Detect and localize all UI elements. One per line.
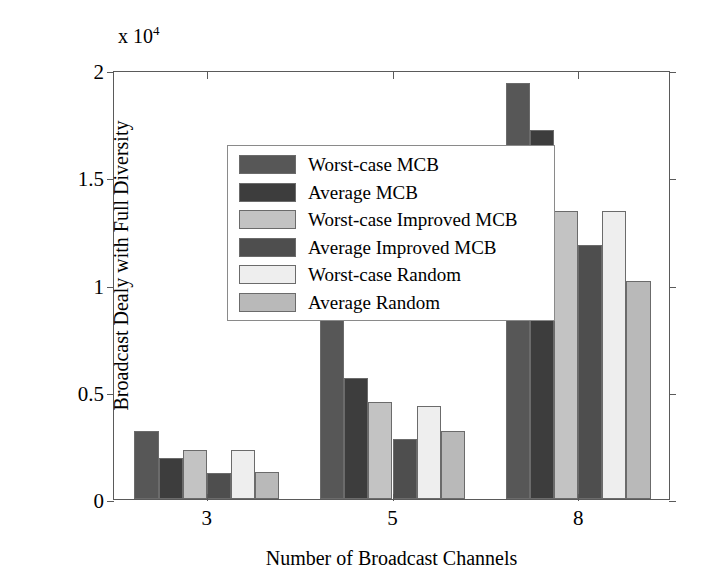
y-axis-title: Broadcast Dealy with Full Diversity [110,31,133,501]
x-axis-tick-top [578,72,579,79]
legend-swatch [239,183,296,202]
legend-swatch [239,293,296,312]
x-axis-tick [393,494,394,501]
bar [417,406,441,499]
bar [368,402,392,499]
x-axis-tick-label: 8 [573,508,584,529]
y-axis-tick-label: 0 [94,491,105,512]
legend-item: Average MCB [228,179,554,207]
y-axis-tick-right [669,287,676,288]
x-axis-tick [207,494,208,501]
y-axis-tick-label: 0.5 [78,383,104,404]
bar [602,211,626,500]
legend-label: Worst-case MCB [308,155,439,174]
bar [255,472,279,499]
bar [134,431,158,499]
x-axis-tick-label: 3 [202,508,213,529]
legend-item: Worst-case Random [228,261,554,289]
x-axis-tick-top [207,72,208,79]
bar [578,245,602,499]
legend-swatch [239,210,296,229]
x-axis-title: Number of Broadcast Channels [113,547,670,570]
legend: Worst-case MCBAverage MCBWorst-case Impr… [227,145,555,321]
y-axis-tick-label: 1 [94,276,105,297]
x-axis-tick-top [393,72,394,79]
y-axis-tick-label: 2 [94,62,105,83]
plot-area: 00.511.52 358 Broadcast Dealy with Full … [113,71,670,500]
y-axis-tick-right [669,179,676,180]
bar [626,281,650,499]
legend-label: Average Random [308,293,440,312]
legend-label: Average Improved MCB [308,238,497,257]
legend-swatch [239,238,296,257]
y-axis-tick-right [669,72,676,73]
bar [441,431,465,499]
legend-item: Average Random [228,289,554,317]
figure-canvas: x 104 00.511.52 358 Broadcast Dealy with… [0,0,705,583]
legend-label: Worst-case Improved MCB [308,210,518,229]
bar [344,378,368,499]
y-axis-tick-right [669,394,676,395]
y-axis-tick-label: 1.5 [78,169,104,190]
legend-item: Worst-case Improved MCB [228,206,554,234]
x-axis-tick [578,494,579,501]
y-axis-tick-right [669,501,676,502]
y-axis-multiplier-exponent: 4 [153,23,160,38]
y-axis-tick [107,501,114,502]
bar [554,211,578,500]
bar [183,450,207,499]
legend-item: Worst-case MCB [228,151,554,179]
x-axis-tick-label: 5 [387,508,398,529]
bar [207,473,231,499]
legend-swatch [239,265,296,284]
bar [231,450,255,499]
bar [393,439,417,499]
legend-label: Worst-case Random [308,265,461,284]
legend-swatch [239,155,296,174]
bar [159,458,183,499]
legend-item: Average Improved MCB [228,234,554,262]
legend-label: Average MCB [308,183,418,202]
